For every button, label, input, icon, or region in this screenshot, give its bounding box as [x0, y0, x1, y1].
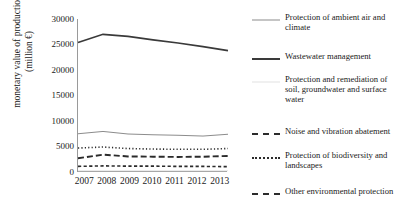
- legend-swatch-icon: [252, 189, 280, 199]
- x-tick-label: 2010: [141, 176, 164, 190]
- legend-swatch-icon: [252, 153, 280, 163]
- y-tick-label: 10000: [28, 117, 74, 126]
- legend-label: Wastewater management: [285, 51, 404, 61]
- series-line: [78, 131, 228, 136]
- legend-item[interactable]: Protection of biodiversity and landscape…: [252, 150, 404, 170]
- x-tick-label: 2013: [208, 176, 231, 190]
- legend-swatch-icon: [252, 129, 280, 139]
- legend-swatch-icon: [252, 77, 280, 87]
- y-tick-label: 30000: [28, 15, 74, 24]
- legend-item[interactable]: Protection of ambient air and climate: [252, 12, 404, 32]
- legend-swatch-icon: [252, 15, 280, 25]
- legend-item[interactable]: Other environmental protection: [252, 186, 404, 199]
- legend-label: Protection and remediation of soil, grou…: [285, 74, 404, 105]
- legend-item[interactable]: Protection and remediation of soil, grou…: [252, 74, 404, 105]
- legend-label: Protection of ambient air and climate: [285, 12, 404, 32]
- x-tick-label: 2008: [96, 176, 119, 190]
- y-axis-tick-labels: 300002500020000150001000050000: [28, 19, 74, 172]
- legend-label: Protection of biodiversity and landscape…: [285, 150, 404, 170]
- y-tick-label: 20000: [28, 66, 74, 75]
- legend-item[interactable]: Wastewater management: [252, 51, 404, 64]
- series-line: [78, 166, 228, 167]
- y-tick-label: 15000: [28, 91, 74, 100]
- x-tick-label: 2009: [118, 176, 141, 190]
- legend-label: Other environmental protection: [285, 186, 404, 196]
- series-line: [78, 155, 228, 159]
- y-tick-label: 25000: [28, 40, 74, 49]
- y-tick-label: 0: [28, 168, 74, 177]
- legend-label: Noise and vibration abatement: [285, 126, 404, 136]
- x-tick-label: 2012: [186, 176, 209, 190]
- chart-legend: Protection of ambient air and climateWas…: [252, 12, 404, 198]
- x-axis-tick-labels: 2007200820092010201120122013: [73, 176, 231, 190]
- x-tick-label: 2007: [73, 176, 96, 190]
- y-tick-label: 5000: [28, 142, 74, 151]
- x-tick-label: 2011: [163, 176, 186, 190]
- legend-swatch-icon: [252, 54, 280, 64]
- chart-container: monetary value of production (million €)…: [0, 0, 405, 203]
- series-line: [78, 147, 228, 149]
- series-line: [78, 34, 228, 50]
- legend-item[interactable]: Noise and vibration abatement: [252, 126, 404, 139]
- series-layer: [78, 19, 228, 172]
- plot-area: [77, 19, 227, 172]
